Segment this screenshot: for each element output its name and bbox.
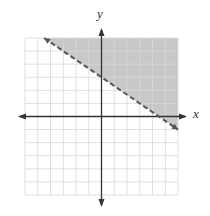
- x-axis-label: x: [193, 106, 199, 122]
- x-arrow-left-icon: [18, 114, 26, 120]
- coordinate-plane: [0, 0, 210, 216]
- y-arrow-down-icon: [99, 199, 105, 207]
- x-arrow-right-icon: [179, 114, 187, 120]
- y-axis-label: y: [97, 6, 103, 22]
- y-arrow-up-icon: [99, 28, 105, 36]
